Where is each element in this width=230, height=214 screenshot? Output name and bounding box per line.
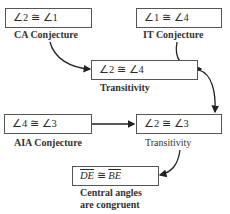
- arrow-n1-n3: [50, 42, 90, 69]
- arrow-n3-n5: [199, 70, 215, 112]
- statement-box-angle2-angle1: ∠2 ≅ ∠1: [5, 8, 92, 28]
- statement-box-angle2-angle3: ∠2 ≅ ∠3: [136, 114, 222, 134]
- arc-be: BE: [108, 170, 121, 181]
- statement-box-angle4-angle3: ∠4 ≅ ∠3: [4, 114, 92, 134]
- reason-transitivity-1: Transitivity: [100, 82, 150, 93]
- reason-aia-conjecture: AIA Conjecture: [14, 137, 82, 148]
- reason-transitivity-2: Transitivity: [145, 137, 191, 148]
- arrow-n5-n6: [160, 150, 180, 175]
- statement-box-arc-de-arc-be: DE ≅ BE: [72, 166, 159, 186]
- reason-central-angles-line1: Central angles: [80, 187, 142, 198]
- congruent-symbol: ≅: [94, 170, 108, 181]
- reason-ca-conjecture: CA Conjecture: [14, 29, 78, 40]
- reason-central-angles-line2: are congruent: [80, 199, 140, 210]
- reason-it-conjecture: IT Conjecture: [143, 29, 203, 40]
- statement-box-angle1-angle4: ∠1 ≅ ∠4: [136, 8, 222, 28]
- statement-box-angle2-angle4: ∠2 ≅ ∠4: [91, 60, 198, 80]
- arc-de: DE: [80, 170, 94, 181]
